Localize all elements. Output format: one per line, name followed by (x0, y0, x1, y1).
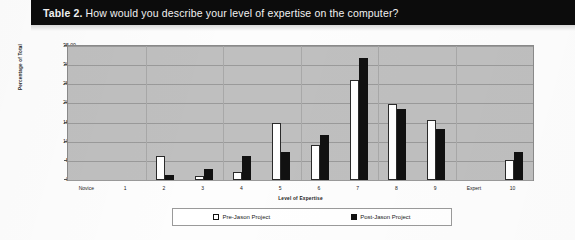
bar-pre (233, 172, 242, 180)
bar-post (281, 152, 290, 180)
x-axis-tick-label: Expert (467, 185, 481, 191)
table-caption-bar: Table 2. How would you describe your lev… (31, 0, 575, 25)
bar-group (107, 46, 146, 180)
bar-pre (427, 120, 436, 180)
bar-group (301, 46, 340, 180)
bar-group (417, 46, 456, 180)
bar-pre (156, 156, 165, 180)
y-axis-title: Percentage of Total (18, 44, 23, 90)
x-axis-tick-label: Novice (79, 185, 94, 191)
bar-post (436, 129, 445, 180)
bar-pre (388, 104, 397, 180)
bar-group (339, 46, 378, 180)
x-axis-tick-label: 1 (124, 185, 127, 191)
x-axis-tick-label: 10 (510, 185, 516, 191)
bar-group (184, 46, 223, 180)
bar-group (223, 46, 262, 180)
table-caption-label: Table 2. (43, 7, 83, 19)
legend-label-post: Post-Jason Project (360, 214, 410, 220)
hollow-square-marker-icon (213, 214, 219, 220)
bar-group (146, 46, 185, 180)
bar-pre (350, 80, 359, 180)
bar-post (320, 135, 329, 180)
chart-legend: Pre-Jason Project Post-Jason Project (172, 208, 452, 226)
bar-pre (195, 176, 204, 180)
document-page: Table 2. How would you describe your lev… (0, 0, 575, 240)
bar-pre (505, 160, 514, 180)
filled-square-marker-icon (351, 214, 357, 220)
bar-post (204, 169, 213, 180)
bar-post (165, 175, 174, 180)
caption-drop-shadow (31, 25, 575, 31)
x-axis-tick-label: 9 (434, 185, 437, 191)
bar-group (68, 46, 107, 180)
bar-post (397, 109, 406, 180)
x-axis-tick-label: 3 (201, 185, 204, 191)
bar-post (242, 156, 251, 180)
x-axis-tick-label: 4 (240, 185, 243, 191)
plot-area (67, 45, 534, 181)
x-axis-tick-label: 6 (317, 185, 320, 191)
table-caption-question: How would you describe your level of exp… (83, 7, 399, 19)
bar-chart: Percentage of Total 0.005.0010.0015.0020… (22, 36, 552, 236)
legend-item-post: Post-Jason Project (351, 214, 410, 220)
gridline (68, 180, 533, 181)
legend-label-pre: Pre-Jason Project (222, 214, 270, 220)
x-axis-tick-label: 5 (279, 185, 282, 191)
x-axis-title: Level of Expertise (67, 196, 534, 201)
table-caption-text: Table 2. How would you describe your lev… (31, 7, 399, 19)
bar-post (359, 58, 368, 180)
bar-group (262, 46, 301, 180)
bar-pre (311, 145, 320, 180)
x-axis-tick-label: 2 (162, 185, 165, 191)
bar-group (378, 46, 417, 180)
bar-series-container (68, 46, 533, 180)
bar-group (494, 46, 533, 180)
bar-group (456, 46, 495, 180)
bar-pre (272, 123, 281, 180)
legend-item-pre: Pre-Jason Project (213, 214, 270, 220)
bar-post (514, 152, 523, 180)
x-axis-tick-label: 8 (395, 185, 398, 191)
x-axis-tick-label: 7 (356, 185, 359, 191)
